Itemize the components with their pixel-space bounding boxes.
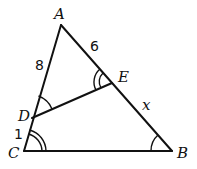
angle-mark-b [151, 135, 158, 151]
segment-ab [61, 25, 172, 151]
length-ad: 8 [35, 57, 44, 73]
length-ae: 6 [90, 38, 99, 54]
label-d: D [17, 107, 30, 125]
angle-mark-e-inner [99, 73, 103, 88]
segment-ac [24, 25, 61, 151]
label-a: A [52, 5, 65, 23]
length-eb: x [142, 96, 151, 114]
label-e: E [117, 68, 129, 86]
length-dc: 1 [14, 126, 23, 142]
segment-de [32, 83, 112, 118]
label-b: B [176, 144, 188, 162]
triangle-diagram: A B C D E 8 6 1 x [0, 0, 197, 169]
label-c: C [8, 144, 20, 162]
